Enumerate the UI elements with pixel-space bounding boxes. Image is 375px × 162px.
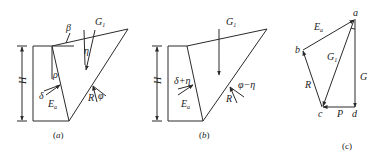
caption-a: (a)	[53, 130, 64, 140]
label-point-a: a	[353, 7, 358, 18]
retaining-wall-force-diagram: β G1 η ρ δ Ea R φ H (a) G1 δ+η Ea R φ−η …	[0, 0, 375, 162]
label-phi-eta: φ−η	[238, 79, 255, 90]
label-g1: G1	[327, 51, 337, 63]
backfill-surface-line	[187, 29, 267, 46]
backfill-surface-line	[52, 29, 128, 46]
panel-c-force-polygon: a b c d Ea G1 G R P (c)	[295, 7, 367, 151]
ea-force-arrow	[46, 85, 60, 95]
label-point-c: c	[318, 108, 323, 119]
label-g1: G1	[226, 16, 236, 28]
label-h: H	[152, 76, 163, 85]
wall-outline	[33, 46, 69, 121]
label-r: R	[87, 92, 94, 103]
label-rho: ρ	[52, 69, 58, 80]
label-delta-eta: δ+η	[174, 75, 190, 86]
label-r: R	[225, 93, 232, 104]
label-g: G	[360, 71, 367, 82]
label-p: P	[336, 108, 343, 119]
beta-leader	[66, 33, 70, 43]
panel-a: β G1 η ρ δ Ea R φ H (a)	[17, 16, 128, 140]
label-point-b: b	[295, 44, 300, 55]
label-delta: δ	[39, 90, 44, 101]
label-ea: Ea	[180, 98, 190, 110]
label-point-d: d	[352, 108, 358, 119]
g1-vector	[323, 20, 354, 106]
angle-arc	[351, 28, 355, 29]
label-h: H	[17, 76, 28, 85]
label-beta: β	[65, 22, 71, 33]
slip-plane-line	[203, 29, 267, 121]
label-g1: G1	[95, 16, 105, 28]
caption-b: (b)	[199, 130, 210, 140]
caption-c: (c)	[342, 141, 352, 151]
slip-plane-line	[69, 29, 128, 121]
panel-b: G1 δ+η Ea R φ−η H (b)	[152, 16, 267, 140]
ea-vector	[303, 20, 354, 50]
label-ea: Ea	[313, 21, 323, 33]
label-r: R	[304, 79, 311, 90]
label-eta: η	[84, 45, 89, 56]
label-ea: Ea	[47, 98, 57, 110]
label-phi: φ	[98, 90, 104, 101]
